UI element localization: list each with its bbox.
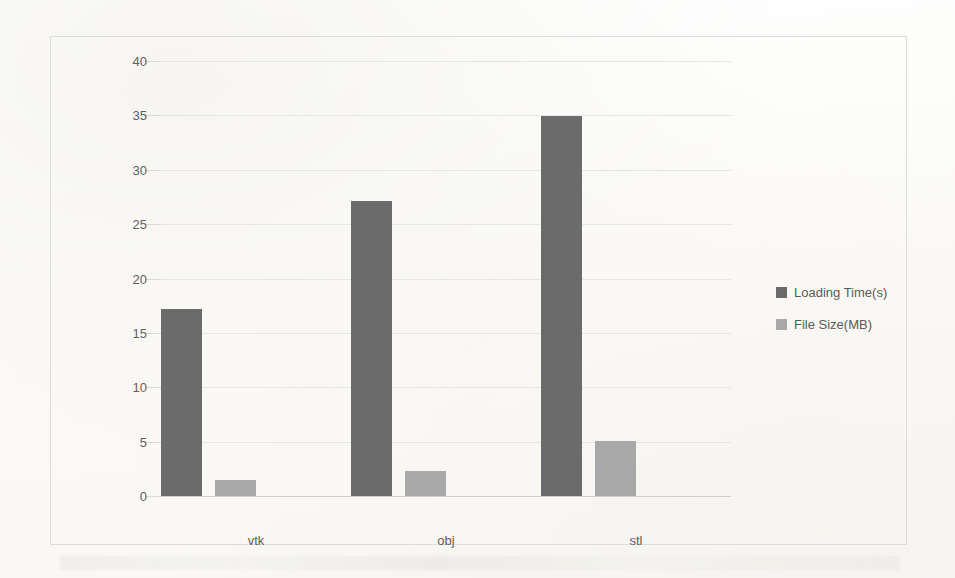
- y-axis-tick-label: 20: [87, 271, 147, 286]
- y-axis-tick-label: 30: [87, 162, 147, 177]
- y-axis-tick-label: 25: [87, 217, 147, 232]
- gridline: [161, 496, 731, 497]
- y-axis-tick-label: 15: [87, 325, 147, 340]
- legend-swatch-file-size: [776, 319, 787, 330]
- bar[interactable]: [541, 116, 582, 496]
- y-axis-tick-mark: [145, 279, 161, 280]
- y-axis-tick-label: 0: [87, 489, 147, 504]
- y-axis-tick-mark: [145, 170, 161, 171]
- bar-group: [541, 61, 731, 496]
- y-axis-tick-label: 5: [87, 434, 147, 449]
- scan-artifact-smudge: [60, 556, 900, 570]
- y-axis-tick-label: 40: [87, 54, 147, 69]
- y-axis-tick-label: 10: [87, 380, 147, 395]
- x-axis-tick-label: vtk: [196, 533, 316, 548]
- bar-group: [351, 61, 541, 496]
- y-axis-tick-mark: [145, 387, 161, 388]
- x-axis-tick-label: obj: [386, 533, 506, 548]
- y-axis-tick-label: 35: [87, 108, 147, 123]
- bar[interactable]: [405, 471, 446, 496]
- y-axis-tick-mark: [145, 442, 161, 443]
- bar[interactable]: [351, 201, 392, 496]
- chart-frame: 0510152025303540vtkobjstl Loading Time(s…: [50, 36, 907, 545]
- legend-swatch-loading-time: [776, 287, 787, 298]
- plot-area: 0510152025303540vtkobjstl: [161, 61, 731, 496]
- bar[interactable]: [215, 480, 256, 496]
- bar-group: [161, 61, 351, 496]
- y-axis-tick-mark: [145, 224, 161, 225]
- bar[interactable]: [161, 309, 202, 496]
- chart-legend: Loading Time(s) File Size(MB): [776, 285, 926, 349]
- y-axis-tick-mark: [145, 333, 161, 334]
- y-axis-tick-mark: [145, 115, 161, 116]
- legend-label-loading-time: Loading Time(s): [794, 285, 887, 300]
- legend-item-file-size[interactable]: File Size(MB): [776, 317, 926, 332]
- y-axis-tick-mark: [145, 61, 161, 62]
- legend-item-loading-time[interactable]: Loading Time(s): [776, 285, 926, 300]
- legend-label-file-size: File Size(MB): [794, 317, 872, 332]
- y-axis-tick-mark: [145, 496, 161, 497]
- x-axis-tick-label: stl: [576, 533, 696, 548]
- bar[interactable]: [595, 441, 636, 496]
